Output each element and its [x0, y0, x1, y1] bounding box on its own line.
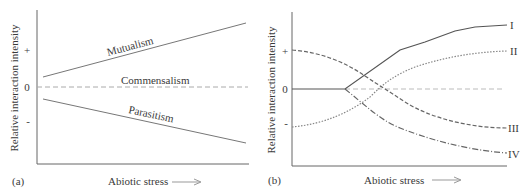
- curve-I: [292, 25, 507, 89]
- mutualism-label: Mutualism: [105, 34, 155, 58]
- y-axis-label: Relative interaction intensity: [8, 24, 20, 152]
- x-axis-label: Abiotic stress: [364, 174, 424, 186]
- tick-minus: -: [26, 115, 30, 127]
- arrow-right-icon: [432, 177, 461, 183]
- panel-a-plot: + 0 - Relative interaction intensity Mut…: [0, 0, 265, 193]
- tick-plus: +: [24, 44, 30, 56]
- arrow-right-icon: [172, 179, 201, 185]
- x-axis-label: Abiotic stress: [108, 175, 168, 187]
- panel-b: + 0 - Relative interaction intensity I I…: [265, 0, 530, 193]
- curve-II-label: II: [510, 45, 518, 57]
- panel-label: (b): [268, 174, 281, 187]
- curve-III-label: III: [508, 122, 519, 134]
- y-axis-label: Relative interaction intensity: [265, 26, 277, 154]
- panel-a: + 0 - Relative interaction intensity Mut…: [0, 0, 265, 193]
- tick-zero: 0: [282, 83, 288, 95]
- tick-zero: 0: [24, 81, 30, 93]
- panel-b-plot: + 0 - Relative interaction intensity I I…: [265, 0, 530, 193]
- curve-IV: [345, 89, 507, 153]
- commensalism-label: Commensalism: [121, 74, 190, 86]
- tick-minus: -: [284, 117, 288, 129]
- curve-IV-label: IV: [508, 148, 520, 160]
- panel-label: (a): [12, 175, 25, 188]
- tick-plus: +: [282, 45, 288, 57]
- curve-I-label: I: [510, 19, 514, 31]
- parasitism-label: Parasitism: [128, 103, 176, 124]
- mutualism-line: [43, 23, 246, 77]
